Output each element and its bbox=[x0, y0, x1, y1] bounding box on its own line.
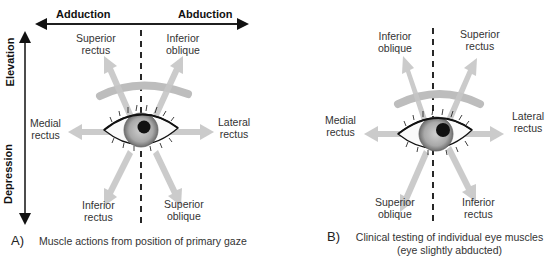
label-inferior-oblique-b: Inferioroblique bbox=[378, 30, 412, 54]
label-superior-rectus-b: Superiorrectus bbox=[460, 28, 500, 52]
label-inferior-rectus-a: Inferiorrectus bbox=[82, 199, 115, 223]
panel-b-graphics bbox=[364, 28, 504, 222]
caption-a: Muscle actions from position of primary … bbox=[39, 235, 247, 248]
label-inferior-rectus-b: Inferiorrectus bbox=[462, 196, 495, 220]
label-lateral-rectus-a: Lateralrectus bbox=[218, 116, 250, 140]
label-medial-rectus-b: Medialrectus bbox=[325, 114, 356, 138]
label-superior-oblique-a: Superioroblique bbox=[164, 198, 204, 222]
caption-b: Clinical testing of individual eye muscl… bbox=[352, 231, 547, 257]
abduction-label: Abduction bbox=[178, 8, 232, 20]
label-inferior-oblique-a: Inferioroblique bbox=[166, 32, 200, 56]
label-superior-rectus-a: Superiorrectus bbox=[76, 32, 116, 56]
caption-letter-a: A) bbox=[11, 233, 24, 248]
label-medial-rectus-a: Medialrectus bbox=[30, 117, 61, 141]
elevation-label: Elevation bbox=[4, 38, 16, 87]
label-superior-oblique-b: Superioroblique bbox=[375, 196, 415, 220]
label-lateral-rectus-b: Lateralrectus bbox=[512, 110, 544, 134]
caption-letter-b: B) bbox=[327, 229, 340, 244]
adduction-label: Adduction bbox=[56, 8, 110, 20]
depression-label: Depression bbox=[2, 144, 14, 204]
